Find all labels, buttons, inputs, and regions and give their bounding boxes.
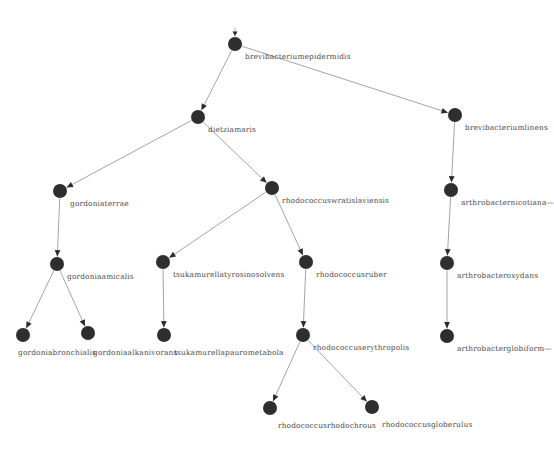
graph-edge <box>275 195 303 255</box>
graph-node-rhodococcuserythropolis[interactable] <box>296 328 310 342</box>
graph-node-gordoniaterrae[interactable] <box>53 184 67 198</box>
edge-line <box>26 271 54 328</box>
edge-line <box>203 122 266 183</box>
edge-arrowhead <box>449 176 455 183</box>
graph-edge <box>449 122 455 182</box>
graph-node-gordoniabronchialis[interactable] <box>16 328 30 342</box>
graph-edge <box>60 271 85 326</box>
root-marker-arrowhead <box>232 31 237 36</box>
graph-edge <box>242 46 448 113</box>
node-layer <box>16 37 462 415</box>
edge-arrowhead <box>444 322 450 328</box>
graph-edge <box>26 271 54 328</box>
graph-edge <box>201 51 231 111</box>
edge-line <box>303 269 305 327</box>
edge-line <box>275 195 303 255</box>
graph-node-gordoniaamicalis[interactable] <box>50 257 64 271</box>
graph-node-gordoniaalkanivorans[interactable] <box>81 326 95 340</box>
edge-line <box>57 198 59 256</box>
graph-node-brevibacteriumepidermidis[interactable] <box>228 37 242 51</box>
graph-node-arthrobacterglobiformis[interactable] <box>440 329 454 343</box>
graph-edge <box>55 198 61 256</box>
graph-node-rhodococcuswratislaviensis[interactable] <box>265 181 279 195</box>
edge-layer <box>26 28 454 402</box>
edge-arrowhead <box>441 108 448 114</box>
edge-line <box>169 192 266 258</box>
edge-arrowhead <box>55 250 61 257</box>
edge-line <box>447 197 450 255</box>
edge-arrowhead <box>445 249 451 256</box>
graph-edge <box>169 192 266 258</box>
graph-edge <box>273 342 300 401</box>
graph-node-rhodococcusgloberulus[interactable] <box>365 400 379 414</box>
graph-edge <box>445 197 451 255</box>
graph-node-dietziamaris[interactable] <box>191 110 205 124</box>
graph-node-arthrobacternicotianae[interactable] <box>444 183 458 197</box>
graph-node-tsukamurellapaurometabola[interactable] <box>157 328 171 342</box>
edge-line <box>60 271 85 326</box>
graph-edge <box>203 122 266 183</box>
edge-line <box>308 340 367 401</box>
edge-arrowhead <box>301 321 307 328</box>
edge-line <box>67 121 192 188</box>
edge-line <box>451 122 454 182</box>
graph-node-rhodococcusrhodochrous[interactable] <box>263 401 277 415</box>
graph-edge <box>301 269 307 327</box>
graph-node-rhodococcusruber[interactable] <box>299 255 313 269</box>
graph-node-tsukamurellatyrosinosolvens[interactable] <box>156 255 170 269</box>
graph-edge <box>444 271 450 329</box>
graph-edge <box>67 121 192 188</box>
graph-node-arthrobacteroxydans[interactable] <box>440 256 454 270</box>
edge-line <box>163 269 164 327</box>
graph-edge <box>161 269 167 327</box>
graph-node-brevibacteriumlinens[interactable] <box>448 108 462 122</box>
edge-line <box>201 51 231 111</box>
edge-arrowhead <box>161 321 167 327</box>
edge-line <box>273 342 300 401</box>
edge-line <box>242 46 448 112</box>
edge-arrowhead <box>169 252 176 258</box>
graph-edge <box>308 340 367 401</box>
